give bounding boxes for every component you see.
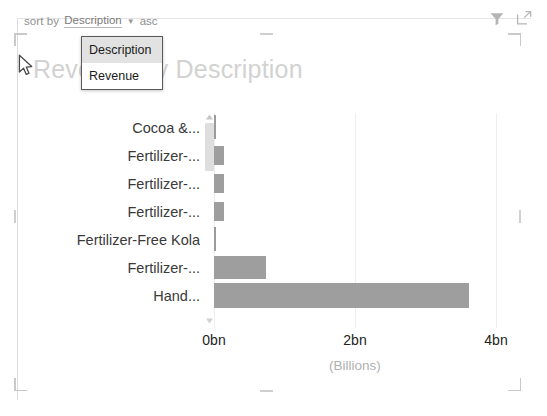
axis-tick-label: 4bn bbox=[484, 332, 507, 348]
axis-tick-label: 0bn bbox=[202, 332, 225, 348]
selection-handle-top-right[interactable] bbox=[508, 33, 521, 46]
mouse-cursor bbox=[18, 54, 35, 78]
bar-cocoa[interactable] bbox=[214, 115, 216, 139]
selection-handle-bottom-left[interactable] bbox=[14, 378, 27, 391]
bar-fertilizer-3[interactable] bbox=[214, 174, 224, 193]
bar-row bbox=[214, 197, 522, 225]
dropdown-option-description[interactable]: Description bbox=[82, 37, 162, 63]
bar-fertilizer-2[interactable] bbox=[214, 146, 224, 165]
dropdown-option-revenue[interactable]: Revenue bbox=[82, 63, 162, 89]
bar-row bbox=[214, 225, 522, 253]
sort-field-dropdown-menu[interactable]: Description Revenue bbox=[81, 36, 163, 90]
selection-handle-middle-left[interactable] bbox=[14, 210, 16, 223]
value-axis-title: (Billions) bbox=[214, 358, 496, 373]
sort-field-button[interactable]: Description bbox=[64, 14, 122, 28]
focus-mode-expand-icon[interactable] bbox=[515, 10, 533, 28]
filter-funnel-icon[interactable] bbox=[488, 10, 506, 28]
selection-handle-bottom-right[interactable] bbox=[508, 378, 521, 391]
selection-handle-bottom-center[interactable] bbox=[260, 390, 273, 392]
axis-tick-label: 2bn bbox=[343, 332, 366, 348]
bar-row bbox=[214, 281, 522, 309]
powerbi-visual-canvas: sort by Description ▼ asc Revenue by D bbox=[0, 0, 547, 416]
category-label[interactable]: Hand... bbox=[24, 282, 200, 310]
category-label[interactable]: Fertilizer-... bbox=[24, 198, 200, 226]
bar-row bbox=[214, 253, 522, 281]
sort-toolbar: sort by Description ▼ asc bbox=[24, 13, 158, 29]
selection-handle-top-center[interactable] bbox=[260, 33, 273, 35]
chart-bars-area bbox=[214, 113, 522, 328]
chevron-down-icon[interactable]: ▼ bbox=[127, 18, 135, 26]
category-label[interactable]: Cocoa &... bbox=[24, 114, 200, 142]
bar-fertilizer-4[interactable] bbox=[214, 202, 224, 221]
bar-fertilizer-free-kola[interactable] bbox=[214, 227, 216, 251]
scrollbar-thumb[interactable] bbox=[205, 123, 214, 171]
category-label[interactable]: Fertilizer-Free Kola bbox=[24, 226, 200, 254]
visual-title: Revenue by Description bbox=[33, 55, 303, 84]
sort-direction-button[interactable]: asc bbox=[140, 15, 158, 27]
bar-row bbox=[214, 169, 522, 197]
scroll-down-arrow-icon[interactable] bbox=[205, 317, 214, 325]
category-label[interactable]: Fertilizer-... bbox=[24, 142, 200, 170]
chart-plot-area: Cocoa &... Fertilizer-... Fertilizer-...… bbox=[24, 110, 522, 330]
category-label[interactable]: Fertilizer-... bbox=[24, 254, 200, 282]
scroll-up-arrow-icon[interactable] bbox=[205, 113, 214, 121]
value-axis: 0bn 2bn 4bn bbox=[214, 332, 522, 352]
category-label[interactable]: Fertilizer-... bbox=[24, 170, 200, 198]
category-axis-labels: Cocoa &... Fertilizer-... Fertilizer-...… bbox=[24, 114, 200, 310]
visual-header-icons bbox=[488, 10, 533, 28]
bar-row bbox=[214, 113, 522, 141]
sort-by-label: sort by bbox=[24, 15, 59, 27]
bar-hand[interactable] bbox=[214, 283, 469, 308]
selection-handle-top-left[interactable] bbox=[14, 33, 27, 46]
bar-fertilizer-6[interactable] bbox=[214, 256, 266, 279]
bar-row bbox=[214, 141, 522, 169]
